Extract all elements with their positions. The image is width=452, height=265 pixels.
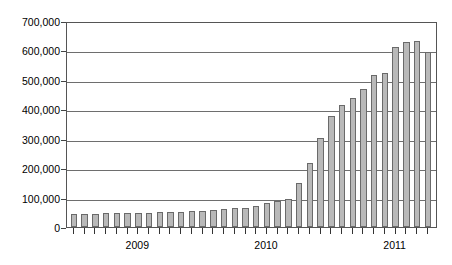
x-axis-tick [384, 228, 385, 234]
bar [339, 105, 345, 227]
y-axis-tick-label: 300,000 [2, 135, 60, 146]
x-axis-tick [223, 228, 224, 234]
x-axis-tick [341, 228, 342, 234]
bar [274, 201, 280, 227]
y-axis: 700,000600,000500,000400,000300,000200,0… [0, 0, 60, 265]
bar [114, 213, 120, 227]
x-axis-tick [212, 228, 213, 234]
y-axis-tick-label: 700,000 [2, 17, 60, 28]
x-axis-year-label: 2010 [254, 239, 277, 251]
bar [360, 89, 366, 227]
x-axis-tick [287, 228, 288, 234]
bar [285, 199, 291, 227]
x-axis-tick [159, 228, 160, 234]
bar [350, 98, 356, 227]
y-axis-tick-label: 200,000 [2, 164, 60, 175]
bar [124, 213, 130, 227]
x-axis-tick [427, 228, 428, 234]
x-axis-tick [234, 228, 235, 234]
bar [264, 203, 270, 227]
x-axis-tick [94, 228, 95, 234]
x-axis-tick [191, 228, 192, 234]
x-axis-tick [277, 228, 278, 234]
bar-chart: 700,000600,000500,000400,000300,000200,0… [0, 0, 452, 265]
bar [167, 212, 173, 227]
x-axis-tick [266, 228, 267, 234]
bar [242, 208, 248, 227]
bar [307, 163, 313, 227]
y-axis-tick-label: 600,000 [2, 46, 60, 57]
x-axis-year-label: 2011 [383, 239, 406, 251]
bar [253, 206, 259, 227]
bars-series [67, 23, 436, 227]
x-axis-tick [309, 228, 310, 234]
bar [221, 209, 227, 227]
x-axis-tick [352, 228, 353, 234]
bar [71, 214, 77, 227]
y-axis-tick-label: 100,000 [2, 194, 60, 205]
y-axis-tick-label: 0 [2, 223, 60, 234]
x-axis-tick [362, 228, 363, 234]
x-axis-tick [180, 228, 181, 234]
bar [328, 116, 334, 227]
plot-area [66, 22, 437, 228]
bar [317, 138, 323, 227]
bar [403, 42, 409, 227]
bar [425, 52, 431, 227]
y-axis-tick-label: 400,000 [2, 105, 60, 116]
bar [382, 73, 388, 228]
bar [392, 47, 398, 227]
bar [189, 211, 195, 227]
bar [178, 212, 184, 227]
bar [92, 214, 98, 227]
x-axis-tick [255, 228, 256, 234]
x-axis-tick [73, 228, 74, 234]
x-axis-tick [148, 228, 149, 234]
bar [146, 213, 152, 227]
x-axis-tick [416, 228, 417, 234]
x-axis-tick [298, 228, 299, 234]
bar [371, 75, 377, 227]
bar [232, 208, 238, 227]
x-axis-tick [116, 228, 117, 234]
x-axis-tick [105, 228, 106, 234]
x-axis-tick [405, 228, 406, 234]
bar [414, 41, 420, 227]
x-axis-tick [373, 228, 374, 234]
x-axis-tick [84, 228, 85, 234]
bar [296, 183, 302, 227]
bar [103, 213, 109, 227]
x-axis-tick [395, 228, 396, 234]
x-axis-tick [169, 228, 170, 234]
x-axis-year-label: 2009 [126, 239, 149, 251]
bar [199, 211, 205, 227]
x-axis-tick [127, 228, 128, 234]
x-axis-tick [137, 228, 138, 234]
bar [157, 212, 163, 227]
x-axis-tick [320, 228, 321, 234]
x-axis-tick [330, 228, 331, 234]
bar [210, 210, 216, 227]
bar [135, 213, 141, 227]
y-axis-tick-label: 500,000 [2, 76, 60, 87]
x-axis: 200920102011 [66, 228, 437, 265]
x-axis-tick [202, 228, 203, 234]
bar [81, 214, 87, 227]
x-axis-tick [245, 228, 246, 234]
